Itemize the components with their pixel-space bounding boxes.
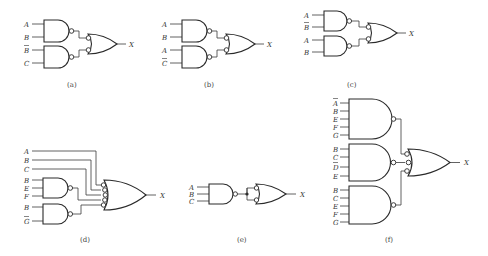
input-label: C xyxy=(333,195,339,203)
or-gate xyxy=(224,34,255,54)
panel-caption: (c) xyxy=(347,81,357,89)
input-label: D xyxy=(332,164,339,172)
output-label: X xyxy=(128,41,135,49)
input-label: G xyxy=(333,219,339,227)
output-label: X xyxy=(299,191,306,199)
panel-a: A B B C X (a) xyxy=(23,20,135,89)
input-label: A xyxy=(23,21,29,29)
logic-circuits-figure: A B B C X (a) A B A C X xyxy=(0,0,488,256)
panel-caption: (b) xyxy=(204,81,214,89)
input-label: B xyxy=(161,34,167,42)
output-label: X xyxy=(159,192,166,200)
nand-gate xyxy=(43,204,73,224)
input-label: A xyxy=(303,37,309,45)
nand-gate xyxy=(209,184,238,204)
input-label: B xyxy=(23,177,29,185)
input-label: E xyxy=(332,203,338,211)
panel-f: A B E F G B C D E B C E F G X (f) xyxy=(332,99,470,245)
panel-b: A B A C X (b) xyxy=(161,20,273,89)
nand-gate xyxy=(324,11,352,31)
input-label: E xyxy=(332,116,338,124)
panel-caption: (a) xyxy=(67,81,77,89)
panel-d: A B C B E F B G X (d) xyxy=(23,148,166,245)
panel-caption: (f) xyxy=(385,236,393,244)
nand-gate xyxy=(44,20,74,42)
output-label: X xyxy=(266,41,273,49)
panel-e: A B C X (e) xyxy=(188,184,306,245)
or-gate xyxy=(405,149,450,176)
nand-gate xyxy=(324,36,352,56)
input-label: B xyxy=(23,47,29,55)
input-label: B xyxy=(23,204,29,212)
nand-gate xyxy=(349,186,396,224)
output-label: X xyxy=(463,159,470,167)
input-label: A xyxy=(161,21,167,29)
input-label: A xyxy=(303,12,309,20)
panel-caption: (e) xyxy=(237,236,247,244)
input-label: C xyxy=(162,60,168,68)
input-label: C xyxy=(333,154,339,162)
nand-gate xyxy=(182,46,212,68)
nand-gate xyxy=(182,20,212,42)
input-label: F xyxy=(23,193,30,201)
input-label: B xyxy=(303,49,309,57)
input-label: B xyxy=(332,108,338,116)
nand-gate xyxy=(349,99,396,139)
input-label: C xyxy=(189,198,195,206)
input-label: B xyxy=(332,146,338,154)
input-label: B xyxy=(23,34,29,42)
input-label: B xyxy=(332,187,338,195)
input-label: C xyxy=(24,166,30,174)
input-label: F xyxy=(332,124,339,132)
input-label: G xyxy=(24,218,30,226)
nand-gate xyxy=(349,144,396,181)
or-gate xyxy=(366,23,397,43)
nand-gate xyxy=(43,178,73,198)
input-label: B xyxy=(303,24,309,32)
nand-gate xyxy=(44,46,74,68)
or-gate xyxy=(254,184,286,204)
output-label: X xyxy=(408,30,415,38)
input-label: C xyxy=(24,60,30,68)
input-label: B xyxy=(23,157,29,165)
input-label: F xyxy=(332,211,339,219)
input-label: A xyxy=(332,100,338,108)
input-label: E xyxy=(23,185,29,193)
panel-c: A B A B X (c) xyxy=(303,11,415,89)
input-label: A xyxy=(161,47,167,55)
input-label: E xyxy=(332,173,338,181)
input-label: G xyxy=(333,132,339,140)
or-gate xyxy=(101,180,146,210)
input-label: A xyxy=(23,148,29,156)
panel-caption: (d) xyxy=(80,236,90,244)
or-gate xyxy=(86,34,117,54)
